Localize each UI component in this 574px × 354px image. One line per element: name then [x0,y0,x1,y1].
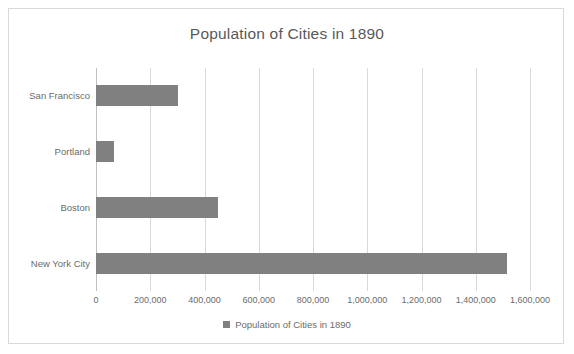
legend-swatch-icon [223,321,230,328]
bar: New York City [96,253,507,274]
y-axis-category-label: Boston [60,197,90,218]
x-axis-tick-label: 400,000 [188,295,221,305]
x-axis-tick-label: 1,200,000 [401,295,441,305]
x-axis-tick-label: 800,000 [297,295,330,305]
x-axis-tick-label: 600,000 [242,295,275,305]
bar: Portland [96,141,114,162]
y-axis-category-label: San Francisco [29,85,90,106]
bar: Boston [96,197,218,218]
x-axis-tick-label: 1,400,000 [456,295,496,305]
chart-title: Population of Cities in 1890 [9,25,565,43]
legend-label: Population of Cities in 1890 [235,319,351,330]
plot-area: San FranciscoPortlandBostonNew York City [96,68,530,291]
x-axis-tick-label: 1,600,000 [510,295,550,305]
y-axis-category-label: New York City [31,253,90,274]
chart-legend: Population of Cities in 1890 [9,319,565,330]
x-axis-tick-label: 1,000,000 [347,295,387,305]
y-axis-category-label: Portland [55,141,90,162]
gridline [530,68,531,291]
x-axis-tick-labels: 0200,000400,000600,000800,0001,000,0001,… [96,295,530,309]
x-axis-tick-label: 0 [93,295,98,305]
x-axis-tick-label: 200,000 [134,295,167,305]
chart-frame: Population of Cities in 1890 San Francis… [8,8,564,344]
bar: San Francisco [96,85,178,106]
